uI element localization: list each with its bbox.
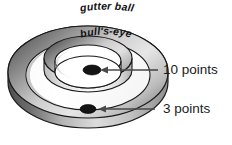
callout-10-points-label: 10 points	[163, 62, 218, 77]
bullseye-ball-icon	[83, 65, 101, 75]
gutter-ball-icon	[80, 105, 96, 114]
bowling-target-diagram: gutter ball bull's-eye	[0, 0, 232, 145]
diagram-canvas: gutter ball bull's-eye	[0, 0, 232, 145]
outer-ring-label: gutter ball	[78, 0, 136, 14]
callout-3-points-label: 3 points	[163, 101, 211, 116]
